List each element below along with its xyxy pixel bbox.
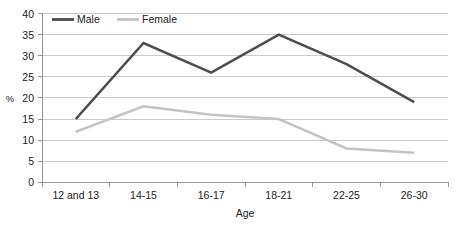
y-tick-label-5: 5 bbox=[28, 155, 34, 167]
legend-label-female: Female bbox=[142, 13, 177, 25]
x-tick-label-5: 26-30 bbox=[401, 189, 428, 201]
x-tick-label-0: 12 and 13 bbox=[52, 189, 99, 201]
y-tick-label-30: 30 bbox=[22, 50, 34, 62]
x-axis-title: Age bbox=[236, 207, 255, 219]
y-tick-label-20: 20 bbox=[22, 92, 34, 104]
x-tick-label-4: 22-25 bbox=[333, 189, 360, 201]
legend: Male Female bbox=[52, 13, 177, 25]
y-tick-label-10: 10 bbox=[22, 134, 34, 146]
legend-label-male: Male bbox=[77, 13, 100, 25]
x-tick-label-1: 14-15 bbox=[130, 189, 157, 201]
y-tick-label-25: 25 bbox=[22, 71, 34, 83]
series-group bbox=[76, 35, 414, 153]
y-axis: 40 35 30 25 20 15 10 5 0 % bbox=[6, 8, 42, 189]
chart-canvas: 40 35 30 25 20 15 10 5 0 % 12 and 13 14-… bbox=[0, 0, 457, 227]
y-tick-label-15: 15 bbox=[22, 113, 34, 125]
y-tick-label-0: 0 bbox=[28, 176, 34, 188]
y-tick-label-40: 40 bbox=[22, 8, 34, 20]
x-tick-label-3: 18-21 bbox=[265, 189, 292, 201]
y-tick-label-35: 35 bbox=[22, 29, 34, 41]
x-tick-label-2: 16-17 bbox=[198, 189, 225, 201]
series-line-female bbox=[76, 106, 414, 153]
line-chart-figure: 40 35 30 25 20 15 10 5 0 % 12 and 13 14-… bbox=[0, 0, 457, 227]
x-axis: 12 and 13 14-15 16-17 18-21 22-25 26-30 … bbox=[42, 182, 448, 219]
y-axis-title: % bbox=[6, 93, 15, 104]
